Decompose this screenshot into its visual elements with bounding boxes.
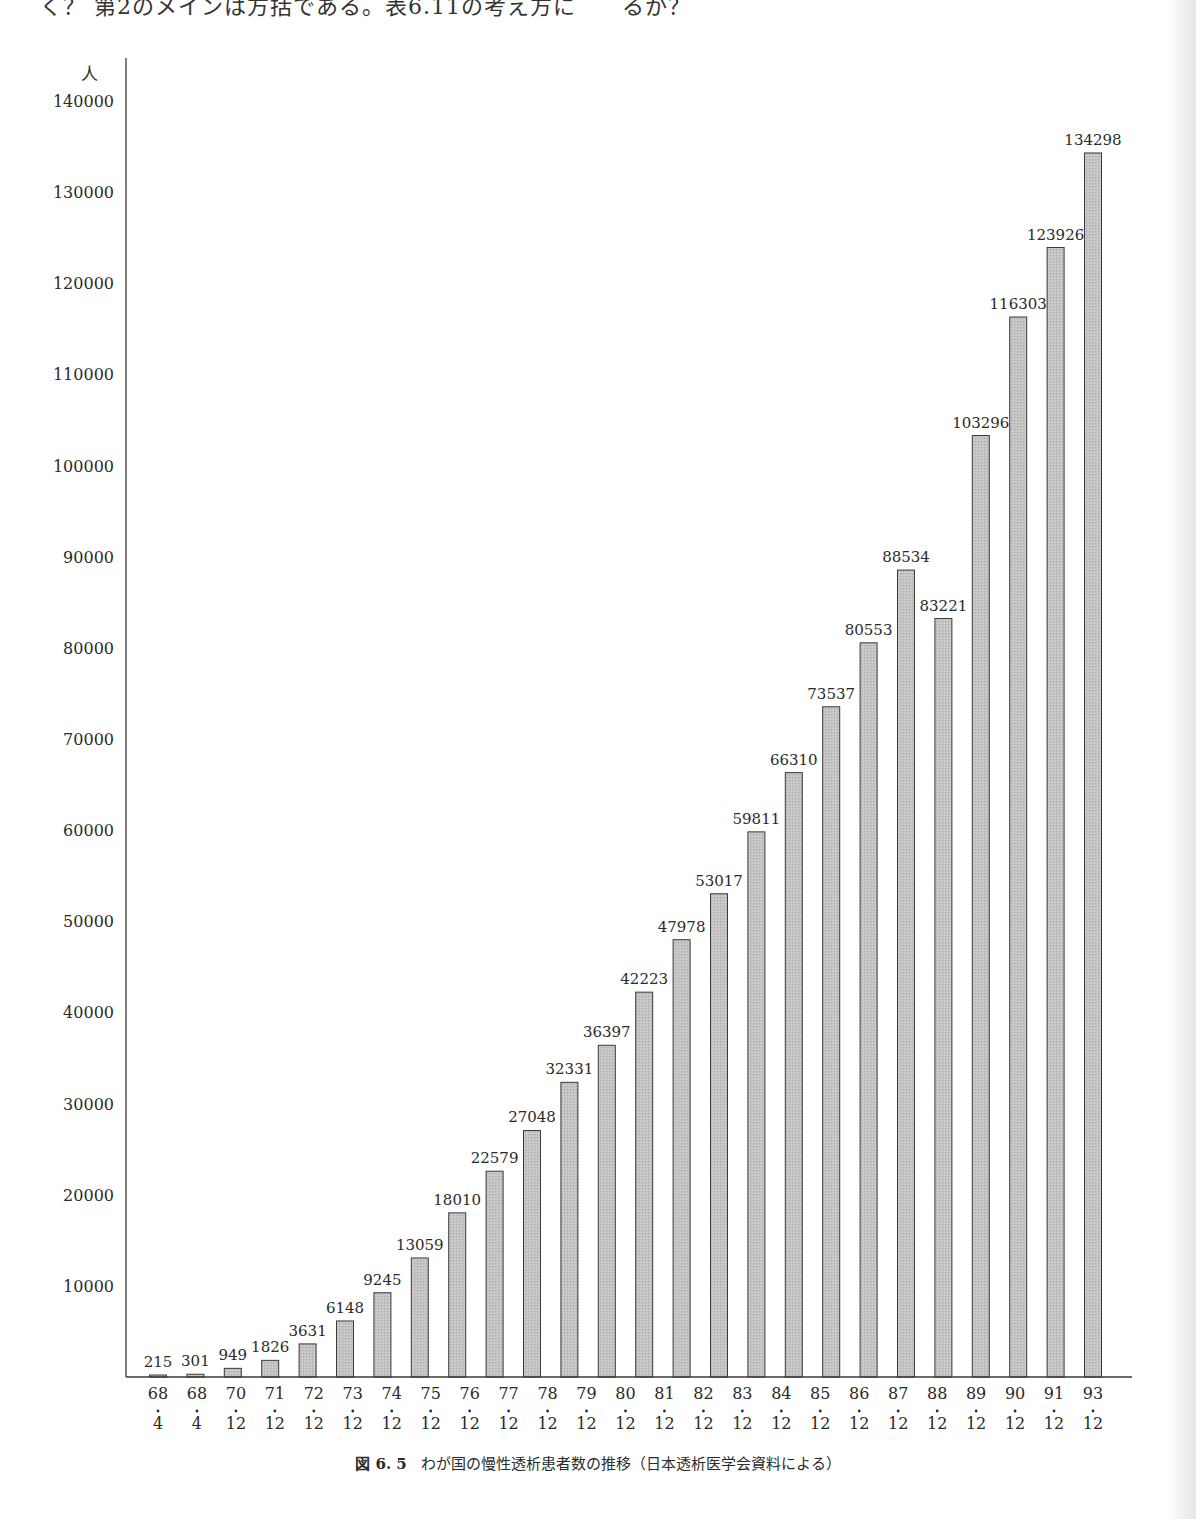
y-tick-label: 60000 [63,821,114,840]
y-tick-label: 20000 [63,1186,114,1205]
x-year-label: 72 [304,1384,324,1403]
bar [860,643,877,1377]
bar-value-label: 134298 [1064,131,1121,149]
x-month-label: 12 [615,1414,635,1433]
bar-value-label: 36397 [583,1023,631,1041]
y-tick-label: 40000 [63,1003,114,1022]
x-month-label: 12 [1044,1414,1064,1433]
x-year-label: 88 [927,1384,947,1403]
bar-value-label: 123926 [1027,226,1084,244]
separator-dot [468,1410,471,1413]
x-year-label: 83 [732,1384,752,1403]
x-category-label: 7112 [265,1384,285,1433]
bar-value-label: 32331 [546,1060,594,1078]
separator-dot [429,1410,432,1413]
bar-group: 83221 [920,597,968,1378]
x-category-label: 7512 [421,1384,441,1433]
y-tick-label: 110000 [53,365,114,384]
x-month-label: 4 [192,1414,202,1433]
separator-dot [157,1410,160,1413]
x-category-label: 8812 [927,1384,947,1433]
bar [598,1045,615,1377]
bar-group: 123926 [1027,226,1084,1377]
x-year-label: 79 [576,1384,596,1403]
bar [374,1293,391,1377]
x-month-label: 12 [226,1414,246,1433]
y-axis: 人100002000030000400005000060000700008000… [53,58,126,1377]
separator-dot [585,1410,588,1413]
bar-group: 53017 [695,872,743,1377]
x-category-label: 8912 [966,1384,986,1433]
bar [972,436,989,1377]
bar-value-label: 22579 [471,1149,519,1167]
bar-group: 3631 [289,1322,327,1377]
x-year-label: 86 [849,1384,869,1403]
separator-dot [312,1410,315,1413]
y-tick-label: 10000 [63,1277,114,1296]
bar-value-label: 13059 [396,1236,444,1254]
bar-group: 13059 [396,1236,444,1377]
x-month-label: 12 [888,1414,908,1433]
bar-group: 103296 [952,414,1009,1377]
bar [524,1130,541,1377]
separator-dot [819,1410,822,1413]
x-month-label: 4 [153,1414,163,1433]
separator-dot [1053,1410,1056,1413]
x-category-label: 9012 [1005,1384,1025,1433]
figure-number: 図 6. 5 [355,1455,407,1473]
x-axis: 6846847012711272127312741275127612771278… [126,1377,1132,1433]
bar [898,570,915,1377]
bar [262,1360,279,1377]
bar [1047,248,1064,1377]
bar-group: 18010 [433,1191,481,1377]
bar-group: 9245 [363,1271,401,1377]
x-category-label: 8312 [732,1384,752,1433]
x-year-label: 90 [1005,1384,1025,1403]
y-tick-label: 120000 [53,274,114,293]
bar-value-label: 9245 [363,1271,401,1289]
bar-group: 59811 [733,810,781,1377]
x-month-label: 12 [537,1414,557,1433]
x-year-label: 70 [226,1384,246,1403]
x-month-label: 12 [304,1414,324,1433]
x-year-label: 93 [1083,1384,1103,1403]
x-category-label: 8612 [849,1384,869,1433]
y-tick-label: 100000 [53,457,114,476]
separator-dot [351,1410,354,1413]
y-tick-label: 30000 [63,1095,114,1114]
bar [224,1368,241,1377]
x-category-label: 8512 [810,1384,830,1433]
bars: 2153019491826363161489245130591801022579… [144,131,1122,1377]
bar-group: 80553 [845,621,893,1377]
bar-group: 88534 [882,548,930,1377]
bar-group: 1826 [251,1338,289,1377]
x-category-label: 684 [187,1384,207,1433]
y-tick-label: 70000 [63,730,114,749]
bar [748,832,765,1377]
bar-group: 134298 [1064,131,1121,1377]
separator-dot [546,1410,549,1413]
separator-dot [741,1410,744,1413]
separator-dot [858,1410,861,1413]
separator-dot [936,1410,939,1413]
x-category-label: 684 [148,1384,168,1433]
bar [636,992,653,1377]
bar-group: 301 [181,1352,210,1377]
bar-value-label: 103296 [952,414,1009,432]
bar-value-label: 42223 [620,970,668,988]
separator-dot [1092,1410,1095,1413]
x-year-label: 68 [187,1384,207,1403]
x-year-label: 75 [421,1384,441,1403]
x-category-label: 8112 [654,1384,674,1433]
x-month-label: 12 [421,1414,441,1433]
separator-dot [507,1410,510,1413]
x-year-label: 82 [693,1384,713,1403]
bar-value-label: 59811 [733,810,781,828]
figure-caption: 図 6. 5わが国の慢性透析患者数の推移（日本透析医学会資料による） [0,1452,1196,1473]
bar-value-label: 116303 [990,295,1047,313]
x-category-label: 7212 [304,1384,324,1433]
bar [785,773,802,1377]
bar-value-label: 53017 [695,872,743,890]
x-year-label: 87 [888,1384,908,1403]
bar-group: 6148 [326,1299,364,1377]
